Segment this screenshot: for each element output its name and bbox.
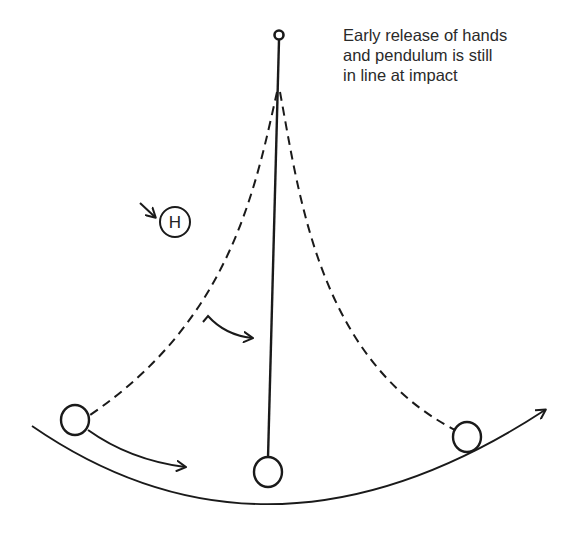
caption: Early release of hands and pendulum is s… xyxy=(343,25,573,85)
pivot-point xyxy=(275,31,284,40)
hand-pointer-arrow xyxy=(140,203,155,217)
pendulum-shaft xyxy=(268,40,279,458)
bob-impact xyxy=(254,457,282,487)
swing-arc-arrow xyxy=(32,410,545,504)
bob-follow-through xyxy=(453,422,481,452)
dashed-path-left xyxy=(90,92,277,415)
caption-line-1: Early release of hands xyxy=(343,25,573,45)
caption-line-3: in line at impact xyxy=(343,65,573,85)
pendulum-diagram: H Early release of hands and pendulum is… xyxy=(0,0,578,545)
motion-arrow-left-bob xyxy=(88,430,185,467)
dashed-path-right xyxy=(280,92,455,430)
motion-arrow-mid xyxy=(203,316,252,338)
caption-line-2: and pendulum is still xyxy=(343,45,573,65)
bob-backswing xyxy=(61,405,89,435)
hand-marker-label: H xyxy=(169,213,181,232)
